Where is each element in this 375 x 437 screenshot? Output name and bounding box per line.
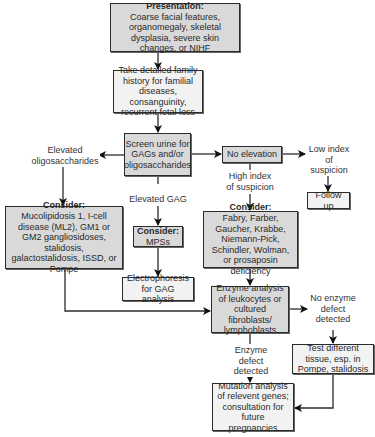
label-low-index: Low index of suspicion <box>306 144 352 176</box>
node-electrophoresis: Electrophoresis for GAG analysis <box>122 277 194 301</box>
node-text: Screen urine for GAGs and/or oligosaccha… <box>124 139 191 171</box>
flowchart: Presentation: Coarse facial features, or… <box>0 0 375 437</box>
node-title: Presentation: <box>146 1 204 12</box>
node-text: Enzyme analysis of leukocytes or culture… <box>215 283 285 336</box>
node-presentation: Presentation: Coarse facial features, or… <box>110 3 240 52</box>
node-consider-mps: Consider: MPSs <box>133 226 183 247</box>
label-elevated-gag: Elevated GAG <box>125 194 191 205</box>
node-follow-up: Follow up <box>307 192 350 209</box>
label-high-index: High index of suspicion <box>225 171 275 192</box>
node-title: Consider: <box>229 202 271 213</box>
node-screen-urine: Screen urine for GAGs and/or oligosaccha… <box>124 133 191 176</box>
node-text: Follow up <box>311 190 346 211</box>
node-mutation-analysis: Mutation analysis of relevent genes; con… <box>212 383 294 431</box>
node-family-history: Take detailed family history for familia… <box>113 70 203 113</box>
node-text: Fabry, Farber, Gaucher, Krabbe, Niemann-… <box>207 213 294 277</box>
node-consider-lysosomal: Consider: Fabry, Farber, Gaucher, Krabbe… <box>203 211 298 268</box>
node-text: Test different tissue, esp. in Pompe, st… <box>296 343 370 375</box>
node-title: Consider: <box>137 226 179 237</box>
label-elevated-oligosaccharides: Elevated oligosaccharides <box>30 145 100 166</box>
node-title: Consider: <box>43 200 85 211</box>
node-enzyme-analysis: Enzyme analysis of leukocytes or culture… <box>211 286 289 333</box>
node-text: Take detailed family history for familia… <box>117 65 199 118</box>
label-enzyme-defect: Enzyme defect detected <box>222 345 280 377</box>
node-text: Coarse facial features, organomegaly, sk… <box>114 12 236 54</box>
node-text: Mutation analysis of relevent genes; con… <box>216 381 290 434</box>
label-no-enzyme-defect: No enzyme defect detected <box>308 293 358 325</box>
node-text: MPSs <box>146 237 170 248</box>
node-text: No elevation <box>227 149 277 160</box>
node-text: Mucolipidosis 1, I-cell disease (ML2), G… <box>9 211 119 275</box>
node-text: Electrophoresis for GAG analysis <box>126 273 190 305</box>
node-no-elevation: No elevation <box>222 146 282 163</box>
node-consider-oligosaccharidoses: Consider: Mucolipidosis 1, I-cell diseas… <box>5 206 123 269</box>
node-test-tissue: Test different tissue, esp. in Pompe, st… <box>292 344 374 374</box>
